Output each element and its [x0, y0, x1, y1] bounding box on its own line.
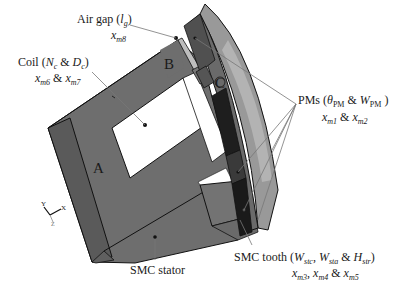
coil-amp2: &	[50, 71, 65, 85]
smc-tooth-var1-sub: m3	[297, 273, 307, 282]
smc-tooth-amp: &	[338, 250, 353, 264]
coil-sym2: D	[73, 55, 82, 69]
coil-close: )	[85, 55, 89, 69]
smc-tooth-close: )	[371, 250, 375, 264]
coil-sym1: N	[46, 55, 54, 69]
pms-sym1-sub: PM	[333, 100, 345, 109]
coil-name: Coil (	[18, 55, 46, 69]
coil-var1-sub: m6	[40, 78, 50, 87]
smc-tooth-vars: xm3, xm4 & xm5	[292, 266, 359, 280]
coil-vars: xm6 & xm7	[35, 71, 81, 85]
pms-vars: xm1 & xm2	[322, 110, 368, 124]
pms-sym2-sub: PM	[370, 100, 382, 109]
air-gap-var-sub: m8	[116, 35, 126, 44]
smc-tooth-var3-sub: m5	[349, 273, 359, 282]
coil-amp: &	[57, 55, 72, 69]
smc-stator-label: SMC stator	[130, 263, 185, 277]
pms-label: PMs (θPM & WPM )	[298, 93, 388, 107]
smc-tooth-sym3-sub: str	[362, 257, 370, 266]
axis-x-label: X	[61, 201, 66, 215]
smc-tooth-var2-sub: m4	[318, 273, 328, 282]
smc-tooth-sym2-sub: sta	[329, 257, 338, 266]
pms-amp2: &	[337, 110, 352, 124]
smc-tooth-sym2: W	[319, 250, 329, 264]
axis-z-label: Z	[51, 217, 55, 231]
smc-tooth-label: SMC tooth (Wstc, Wsta & Hstr)	[234, 250, 375, 264]
pms-name: PMs (	[298, 93, 327, 107]
axis-y-label: Y	[41, 197, 46, 211]
pms-var2-sub: m2	[358, 117, 368, 126]
air-gap-label: Air gap (lg)	[77, 12, 132, 26]
coil-label: Coil (Nc & Dc)	[18, 55, 89, 69]
pms-close: )	[381, 93, 388, 107]
coil-var2-sub: m7	[71, 78, 81, 87]
pms-amp: &	[344, 93, 359, 107]
air-gap-close: )	[128, 12, 132, 26]
region-label-a: A	[93, 160, 104, 177]
air-gap-var: xm8	[111, 28, 126, 42]
smc-tooth-name: SMC tooth (	[234, 250, 294, 264]
region-label-c: C	[215, 75, 225, 92]
smc-tooth-sym1: W	[294, 250, 304, 264]
smc-tooth-sym3: H	[354, 250, 363, 264]
smc-tooth-amp2: &	[328, 266, 343, 280]
pms-var1-sub: m1	[327, 117, 337, 126]
air-gap-name: Air gap (	[77, 12, 120, 26]
region-label-b: B	[164, 56, 174, 73]
smc-tooth-sym1-sub: stc	[304, 257, 313, 266]
pms-sym2: W	[360, 93, 370, 107]
